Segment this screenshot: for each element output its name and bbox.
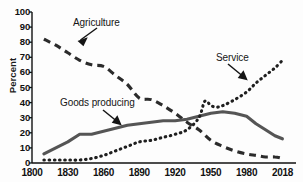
plot-canvas: [0, 0, 303, 182]
goods-arrow-head: [113, 117, 121, 125]
series-label-goods-producing: Goods producing: [60, 97, 135, 108]
employment-share-chart: Percent 1009080706050403020100 180018301…: [0, 0, 303, 182]
service-arrow-head: [239, 72, 247, 80]
series-label-service: Service: [216, 52, 249, 63]
agriculture-arrow-line: [81, 28, 98, 40]
series-line-goods-producing: [44, 112, 283, 154]
series-label-agriculture: Agriculture: [73, 17, 120, 28]
agriculture-arrow-head: [79, 39, 86, 45]
series-line-service: [44, 60, 283, 160]
